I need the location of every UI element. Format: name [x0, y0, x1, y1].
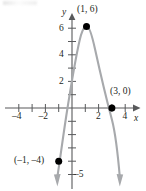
- parabola-curve: [57, 26, 120, 178]
- x-tick-label-neg2: –2: [39, 112, 49, 122]
- point-label-lower-left: (–1, –4): [14, 156, 44, 166]
- curve-arrowhead-right: [117, 174, 124, 187]
- x-axis-label: x: [134, 114, 138, 124]
- point-label-vertex: (1, 6): [77, 5, 98, 15]
- x-tick-label-4: 4: [123, 112, 128, 122]
- point-label-xintercept: (3, 0): [110, 87, 131, 97]
- data-point-lower-left: [55, 158, 62, 165]
- y-tick-label-2: 2: [59, 77, 64, 87]
- y-tick-label-4: 4: [59, 50, 64, 60]
- x-tick-label-2: 2: [96, 112, 101, 122]
- curve-arrowhead-left: [54, 174, 61, 187]
- data-point-vertex: [83, 23, 90, 30]
- data-point-xintercept: [108, 105, 115, 112]
- y-axis-arrowhead: [69, 13, 76, 20]
- x-axis-arrowhead: [133, 105, 141, 112]
- y-tick-label-6: 6: [59, 24, 64, 34]
- graph-figure: x y –4 –2 2 4 6 4 2 –5 (1, 6) (3, 0) (–1…: [0, 0, 146, 191]
- y-axis-label: y: [62, 8, 66, 18]
- x-tick-label-neg4: –4: [12, 112, 22, 122]
- y-tick-label-neg5: –5: [74, 170, 84, 180]
